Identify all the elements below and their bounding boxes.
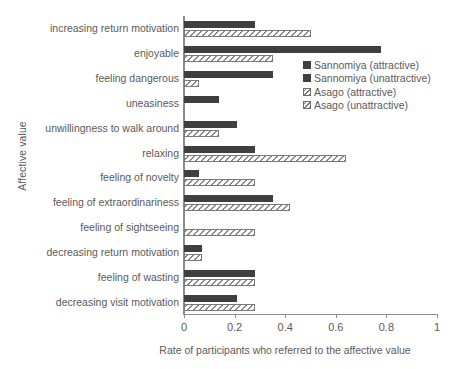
bar-solid (184, 195, 273, 202)
legend-item: Asago (unattractive) (303, 99, 453, 113)
x-tick-label: 0.6 (328, 321, 343, 333)
category-label: decreasing visit motivation (56, 296, 179, 308)
bar-hatch (184, 304, 255, 311)
bar-hatch (184, 229, 255, 236)
x-tick-label: 0.2 (227, 321, 242, 333)
category-label: decreasing return motivation (47, 246, 180, 258)
bar-chart: Affective value increasing return motiva… (0, 0, 455, 369)
bar-row: decreasing return motivation (184, 240, 437, 265)
legend-swatch-icon (303, 101, 311, 109)
legend-swatch-icon (303, 74, 311, 82)
bar-solid (184, 96, 219, 103)
bar-solid (184, 146, 255, 153)
category-label: feeling of wasting (98, 271, 179, 283)
legend-label: Asago (unattractive) (314, 100, 408, 111)
bar-hatch (184, 179, 255, 186)
bar-row: feeling of wasting (184, 264, 437, 289)
category-label: uneasiness (126, 97, 179, 109)
bar-solid (184, 71, 273, 78)
bar-hatch (184, 279, 255, 286)
category-label: feeling of extraordinariness (53, 196, 179, 208)
bar-solid (184, 245, 202, 252)
bar-hatch (184, 204, 290, 211)
x-tick-mark (437, 314, 438, 318)
bar-row: feeling of sightseeing (184, 215, 437, 240)
bar-hatch (184, 30, 311, 37)
x-tick-mark (285, 314, 286, 318)
x-tick-mark (336, 314, 337, 318)
category-label: feeling of sightseeing (80, 221, 179, 233)
x-tick-mark (235, 314, 236, 318)
x-tick-label: 0.8 (379, 321, 394, 333)
chart-legend: Sannomiya (attractive)Sannomiya (unattra… (303, 58, 453, 112)
bar-solid (184, 46, 381, 53)
category-label: feeling of novelty (100, 171, 179, 183)
x-axis-line (183, 314, 437, 315)
legend-label: Sannomiya (unattractive) (314, 73, 431, 84)
category-label: enjoyable (134, 47, 179, 59)
bar-hatch (184, 130, 219, 137)
category-label: increasing return motivation (50, 22, 179, 34)
legend-item: Asago (attractive) (303, 85, 453, 99)
category-label: relaxing (142, 147, 179, 159)
x-axis-title: Rate of participants who referred to the… (120, 344, 450, 356)
bar-hatch (184, 155, 346, 162)
x-tick-label: 0.4 (278, 321, 293, 333)
x-tick-mark (184, 314, 185, 318)
bar-solid (184, 170, 199, 177)
legend-label: Asago (attractive) (314, 87, 396, 98)
bar-row: increasing return motivation (184, 16, 437, 41)
bar-solid (184, 295, 237, 302)
bar-hatch (184, 80, 199, 87)
x-tick-label: 0 (181, 321, 187, 333)
legend-item: Sannomiya (unattractive) (303, 72, 453, 86)
x-tick-label: 1 (434, 321, 440, 333)
legend-swatch-icon (303, 61, 311, 69)
bar-row: feeling of extraordinariness (184, 190, 437, 215)
bar-hatch (184, 55, 273, 62)
bar-solid (184, 121, 237, 128)
bar-solid (184, 270, 255, 277)
bar-row: feeling of novelty (184, 165, 437, 190)
y-axis-title: Affective value (16, 86, 28, 226)
category-label: feeling dangerous (96, 72, 179, 84)
bar-hatch (184, 254, 202, 261)
legend-swatch-icon (303, 88, 311, 96)
category-label: unwillingness to walk around (45, 122, 179, 134)
x-tick-mark (386, 314, 387, 318)
legend-item: Sannomiya (attractive) (303, 58, 453, 72)
bar-row: decreasing visit motivation (184, 289, 437, 314)
bar-row: relaxing (184, 140, 437, 165)
bar-row: unwillingness to walk around (184, 115, 437, 140)
bar-solid (184, 21, 255, 28)
legend-label: Sannomiya (attractive) (314, 60, 419, 71)
